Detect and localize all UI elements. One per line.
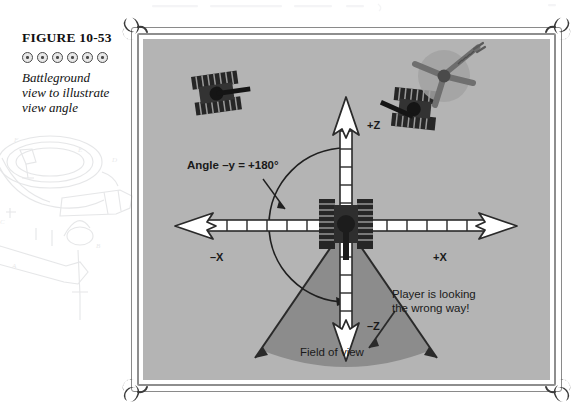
figure-description-line: Battleground xyxy=(22,70,130,85)
scan-header-artifact xyxy=(150,2,570,12)
player-note-line: the wrong way! xyxy=(392,302,476,316)
negative-x-arrowhead xyxy=(175,213,216,239)
svg-text:F: F xyxy=(13,136,19,144)
svg-text:C: C xyxy=(0,218,5,226)
figure-description-line: view to illustrate xyxy=(22,85,130,100)
diagram-panel: +Z –Z +X –X Angle –y = +180° Field of vi… xyxy=(143,39,550,380)
player-tank-at-origin xyxy=(319,199,373,260)
ornament-dot-icon xyxy=(22,52,33,63)
field-of-view-label: Field of view xyxy=(300,346,364,358)
figure-description: Battleground view to illustrate view ang… xyxy=(22,70,130,115)
ornament-dot-icon xyxy=(97,52,108,63)
angle-leader-arrowhead xyxy=(277,201,285,209)
axis-label-positive-x: +X xyxy=(433,251,447,263)
battleground-diagram xyxy=(143,39,550,380)
enemy-tank-upper-left xyxy=(191,69,253,116)
svg-text:E: E xyxy=(77,146,83,154)
ornament-dot-icon xyxy=(82,52,93,63)
background-illustration-watermark: FED CAB xyxy=(0,128,142,338)
player-direction-note: Player is looking the wrong way! xyxy=(392,288,476,315)
ornament-dot-icon xyxy=(67,52,78,63)
figure-description-line: view angle xyxy=(22,100,130,115)
figure-caption-block: FIGURE 10-53 Battleground view to illust… xyxy=(22,30,130,115)
ornament-dot-icon xyxy=(37,52,48,63)
angle-annotation: Angle –y = +180° xyxy=(187,159,279,171)
axis-label-positive-z: +Z xyxy=(367,119,380,131)
player-note-line: Player is looking xyxy=(392,288,476,302)
svg-text:B: B xyxy=(96,242,101,250)
axis-label-negative-z: –Z xyxy=(367,320,380,332)
caption-ornament-row xyxy=(22,52,130,63)
svg-text:D: D xyxy=(111,156,117,164)
positive-z-arrowhead xyxy=(333,97,359,138)
figure-frame: +Z –Z +X –X Angle –y = +180° Field of vi… xyxy=(131,27,562,392)
svg-text:A: A xyxy=(11,262,17,270)
axis-label-negative-x: –X xyxy=(210,251,223,263)
figure-number: FIGURE 10-53 xyxy=(22,30,130,46)
ornament-dot-icon xyxy=(52,52,63,63)
positive-x-arrowhead xyxy=(476,213,517,239)
